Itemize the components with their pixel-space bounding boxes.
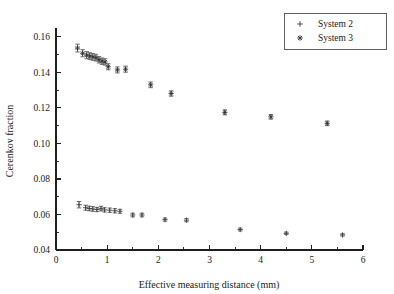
data-point — [148, 82, 153, 88]
data-point — [106, 64, 111, 70]
data-point — [268, 114, 273, 119]
x-tick-label: 1 — [105, 255, 110, 265]
data-point — [94, 207, 99, 212]
y-tick-label: 0.12 — [33, 103, 50, 113]
data-point — [184, 218, 189, 223]
y-tick-label: 0.04 — [33, 245, 50, 255]
x-tick-label: 5 — [309, 255, 314, 265]
marker-star — [222, 110, 227, 115]
data-point — [340, 232, 345, 237]
axis-ticks — [56, 37, 363, 250]
data-point — [139, 212, 144, 217]
legend-label-1: System 2 — [318, 19, 353, 29]
y-tick-label: 0.08 — [33, 174, 50, 184]
data-points — [75, 44, 345, 237]
marker-plus — [284, 231, 289, 236]
marker-star — [75, 45, 80, 50]
data-point — [169, 91, 174, 96]
data-point — [80, 50, 85, 57]
marker-star — [297, 35, 303, 41]
scatter-plot: 01234560.040.060.080.100.120.140.16 Syst… — [0, 0, 394, 294]
axis-tick-labels: 01234560.040.060.080.100.120.140.16 — [33, 32, 365, 265]
x-tick-label: 2 — [156, 255, 161, 265]
data-point — [130, 212, 135, 217]
x-tick-label: 6 — [361, 255, 366, 265]
y-tick-label: 0.16 — [33, 32, 50, 42]
data-point — [162, 217, 167, 222]
marker-plus — [340, 232, 345, 237]
y-axis-title: Cerenkov fraction — [4, 105, 15, 177]
data-point — [107, 208, 112, 213]
marker-star — [123, 67, 128, 72]
chart-figure: 01234560.040.060.080.100.120.140.16 Syst… — [0, 0, 394, 294]
y-tick-label: 0.10 — [33, 139, 50, 149]
data-point — [76, 202, 81, 208]
marker-star — [106, 64, 111, 69]
y-tick-label: 0.06 — [33, 210, 50, 220]
data-point — [102, 207, 107, 212]
legend-box — [284, 13, 386, 49]
marker-plus — [76, 202, 81, 207]
x-axis-title: Effective measuring distance (mm) — [139, 279, 280, 291]
series-2 — [75, 44, 330, 126]
data-point — [75, 44, 80, 52]
data-point — [115, 67, 120, 73]
legend-label-2: System 3 — [318, 33, 353, 43]
x-tick-label: 0 — [54, 255, 59, 265]
data-point — [123, 66, 128, 72]
data-point — [222, 110, 227, 115]
x-tick-label: 4 — [258, 255, 263, 265]
marker-star — [169, 91, 174, 96]
marker-star — [268, 114, 273, 119]
data-point — [284, 231, 289, 236]
data-point — [117, 209, 122, 214]
marker-star — [115, 67, 120, 72]
data-point — [325, 121, 330, 126]
marker-star — [325, 121, 330, 126]
chart-legend: System 2System 3 — [284, 13, 386, 49]
marker-star — [148, 82, 153, 87]
data-point — [112, 208, 117, 213]
y-tick-label: 0.14 — [33, 68, 50, 78]
marker-plus — [98, 206, 103, 211]
data-point — [98, 206, 103, 211]
data-point — [238, 227, 243, 232]
series-1 — [76, 202, 345, 238]
x-tick-label: 3 — [207, 255, 212, 265]
